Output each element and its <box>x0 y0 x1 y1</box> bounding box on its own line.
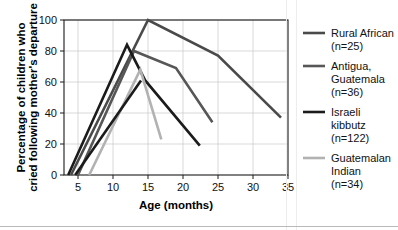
legend-label-3-line-1: Israeli <box>331 106 360 118</box>
y-tick-label: 20 <box>45 138 57 150</box>
separation-anxiety-line-chart: 5101520253035020406080100Age (months)Per… <box>0 0 398 230</box>
legend-label-2-line-3: (n=36) <box>331 86 363 98</box>
legend-label-4-line-3: (n=34) <box>331 178 363 190</box>
y-axis-title-line-2: cried following mother's departure <box>27 3 39 192</box>
x-tick-label: 35 <box>282 181 294 193</box>
y-tick-label: 80 <box>45 45 57 57</box>
plot-frame <box>64 20 288 175</box>
legend-label-3-line-3: (n=122) <box>331 132 369 144</box>
x-tick-label: 25 <box>212 181 224 193</box>
y-axis-title-line-1: Percentage of children who <box>15 22 27 172</box>
y-tick-label: 40 <box>45 107 57 119</box>
legend-label-1-line-2: (n=25) <box>331 40 363 52</box>
legend-label-4-line-2: Indian <box>331 165 361 177</box>
legend-label-2-line-1: Antigua, <box>331 60 371 72</box>
legend-label-3-line-2: kibbutz <box>331 119 366 131</box>
y-tick-label: 0 <box>51 169 57 181</box>
scan-artifact-left <box>286 0 287 230</box>
x-tick-label: 30 <box>247 181 259 193</box>
x-tick-label: 15 <box>142 181 154 193</box>
page-bottom-rule <box>0 226 398 227</box>
y-tick-label: 100 <box>39 14 57 26</box>
chart-container: 5101520253035020406080100Age (months)Per… <box>0 0 398 230</box>
scan-artifact-right <box>296 0 297 230</box>
y-tick-label: 60 <box>45 76 57 88</box>
series-line-israeli-kibbutz-secondary <box>75 80 141 175</box>
legend-label-1-line-1: Rural African <box>331 27 394 39</box>
legend-label-2-line-2: Guatemala <box>331 73 386 85</box>
legend-label-4-line-1: Guatemalan <box>331 152 391 164</box>
x-axis-title: Age (months) <box>139 199 213 211</box>
x-tick-label: 20 <box>177 181 189 193</box>
x-tick-label: 10 <box>107 181 119 193</box>
x-tick-label: 5 <box>75 181 81 193</box>
